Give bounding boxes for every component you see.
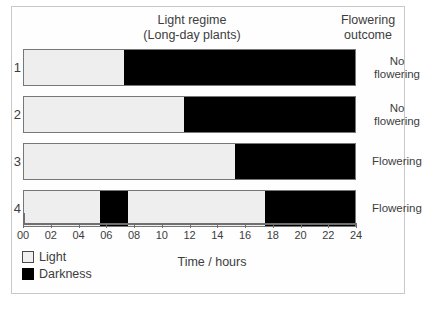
darkness-segment [100,191,128,226]
x-axis-tick [79,223,80,228]
row-number-label: 2 [10,107,21,122]
bar-row [23,96,356,133]
x-axis-tick [134,223,135,228]
row-number-label: 4 [10,201,21,216]
bar-row [23,49,356,86]
x-axis-tick-label: 22 [316,229,340,241]
x-axis-tick [23,223,24,228]
bar-row [23,190,356,227]
x-axis-tick-label: 24 [344,229,368,241]
flowering-outcome-label: No flowering [364,55,426,81]
light-segment [24,144,235,179]
x-axis-title: Time / hours [132,255,292,269]
x-axis-tick-label: 10 [150,229,174,241]
light-segment [128,191,265,226]
x-axis-tick [301,223,302,228]
x-axis-tick-label: 12 [178,229,202,241]
x-axis-tick [51,223,52,228]
light-segment [24,50,124,85]
x-axis-tick-label: 06 [94,229,118,241]
legend-label-light: Light [39,250,66,264]
x-axis-tick [328,223,329,228]
row-number-label: 1 [10,60,21,75]
darkness-segment [124,50,356,85]
darkness-segment [184,97,356,132]
figure-panel: Light regime (Long-day plants) Flowering… [11,6,405,294]
x-axis-tick [106,223,107,228]
bar-row [23,143,356,180]
x-axis-tick-label: 04 [67,229,91,241]
x-axis-tick-label: 16 [233,229,257,241]
x-axis-tick-label: 14 [205,229,229,241]
flowering-outcome-label: Flowering [364,155,426,168]
light-segment [24,97,184,132]
legend-item-darkness: Darkness [22,266,92,282]
x-axis-tick [190,223,191,228]
x-axis-tick-label: 18 [261,229,285,241]
row-number-label: 3 [10,154,21,169]
legend-label-darkness: Darkness [39,267,92,281]
x-axis-tick [217,223,218,228]
x-axis-tick-label: 02 [39,229,63,241]
light-segment [24,191,100,226]
chart-legend: Light Darkness [22,249,92,283]
darkness-segment [265,191,356,226]
light-swatch-icon [22,251,34,263]
chart-plot-area: 1No flowering2No flowering3Flowering4Flo… [23,49,356,223]
x-axis-tick-label: 08 [122,229,146,241]
x-axis-tick-label: 00 [11,229,35,241]
x-axis-tick [245,223,246,228]
dark-swatch-icon [22,268,34,280]
light-regime-header: Light regime (Long-day plants) [82,13,302,42]
darkness-segment [235,144,356,179]
x-axis-tick-label: 20 [289,229,313,241]
x-axis-tick [162,223,163,228]
flowering-outcome-label: No flowering [364,102,426,128]
x-axis-tick [356,223,357,228]
flowering-outcome-header: Flowering outcome [330,13,406,42]
legend-item-light: Light [22,249,92,265]
flowering-outcome-label: Flowering [364,202,426,215]
x-axis-tick [273,223,274,228]
